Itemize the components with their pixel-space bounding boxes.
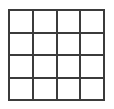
grid-cell-r1-c1 <box>10 11 34 34</box>
grid-cell-r1-c4 <box>81 11 105 34</box>
grid-cell-r1-c3 <box>58 11 82 34</box>
grid-cell-r4-c2 <box>34 79 58 102</box>
grid-cell-r2-c2 <box>34 34 58 57</box>
square-grid <box>8 9 105 101</box>
grid-cell-r3-c1 <box>10 56 34 79</box>
grid-cell-r4-c1 <box>10 79 34 102</box>
grid-cell-r1-c2 <box>34 11 58 34</box>
grid-cell-r4-c3 <box>58 79 82 102</box>
grid-cell-r4-c4 <box>81 79 105 102</box>
grid-cell-r2-c3 <box>58 34 82 57</box>
grid-cell-r2-c1 <box>10 34 34 57</box>
grid-cell-r2-c4 <box>81 34 105 57</box>
grid-cell-r3-c2 <box>34 56 58 79</box>
grid-cell-r3-c4 <box>81 56 105 79</box>
image-canvas <box>0 0 114 109</box>
grid-cell-r3-c3 <box>58 56 82 79</box>
